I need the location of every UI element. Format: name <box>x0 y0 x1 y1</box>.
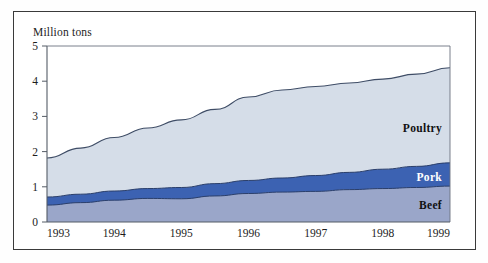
x-ticks: 1993199419951996199719981999 <box>47 227 450 239</box>
chart-canvas: 012345 1993199419951996199719981999 Poul… <box>0 0 488 263</box>
x-tick-label: 1995 <box>170 227 193 239</box>
x-tick-label: 1994 <box>103 227 126 239</box>
x-tick-label: 1997 <box>304 227 327 239</box>
figure: Million tons 012345 19931994199519961997… <box>0 0 488 263</box>
x-tick-label: 1999 <box>427 227 450 239</box>
series-label-beef: Beef <box>419 199 442 211</box>
y-tick-label: 4 <box>32 75 38 87</box>
y-tick-label: 3 <box>32 110 38 122</box>
y-tick-label: 0 <box>32 216 38 228</box>
y-tick-label: 2 <box>32 146 38 158</box>
series-label-pork: Pork <box>417 171 443 183</box>
y-ticks: 012345 <box>32 40 47 228</box>
y-tick-label: 5 <box>32 40 38 52</box>
x-tick-label: 1993 <box>47 227 70 239</box>
x-tick-label: 1996 <box>237 227 260 239</box>
series-label-poultry: Poultry <box>403 122 442 135</box>
y-tick-label: 1 <box>32 181 38 193</box>
x-tick-label: 1998 <box>371 227 394 239</box>
